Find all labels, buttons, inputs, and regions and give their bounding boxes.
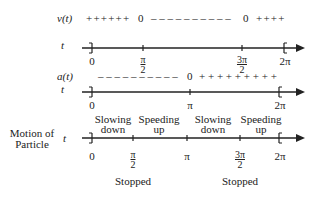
motion-axis-var: t: [63, 132, 66, 144]
velocity-axis-var: t: [61, 39, 64, 51]
motion-tick-pi-over-2: π2: [130, 148, 135, 169]
velocity-zero-2: 0: [243, 12, 250, 24]
acceleration-tick-pi: π: [187, 99, 193, 111]
velocity-positive-signs-2: ++++: [256, 12, 286, 24]
acceleration-axis: [82, 87, 305, 97]
motion-label: Motion of Particle: [4, 128, 60, 150]
stopped-label-1: Stopped: [115, 175, 151, 187]
velocity-axis: [82, 43, 305, 53]
acceleration-positive-signs: + + + + + + + + +: [199, 70, 277, 82]
motion-segment-slowing-2: Slowingdown: [195, 114, 232, 134]
motion-tick-pi: π: [184, 150, 190, 162]
stopped-label-2: Stopped: [222, 175, 258, 187]
acceleration-zero: 0: [187, 70, 194, 82]
acceleration-negative-signs: – – – – – – – – – –: [98, 70, 178, 82]
motion-tick-2pi: 2π: [274, 150, 285, 162]
motion-tick-0: 0: [89, 150, 95, 162]
velocity-label: v(t): [57, 12, 72, 24]
velocity-zero-1: 0: [138, 12, 145, 24]
motion-segment-slowing-1: Slowingdown: [95, 114, 132, 134]
acceleration-axis-var: t: [61, 83, 64, 95]
axes-graphics: [0, 0, 316, 198]
acceleration-label: a(t): [57, 70, 73, 82]
acceleration-tick-0: 0: [89, 99, 95, 111]
motion-segment-speeding-2: Speedingup: [241, 114, 282, 134]
motion-tick-3pi-over-2: 3π2: [235, 148, 245, 169]
acceleration-tick-2pi: 2π: [274, 99, 285, 111]
velocity-positive-signs-1: ++++++: [86, 12, 130, 24]
velocity-tick-2pi: 2π: [279, 55, 290, 67]
velocity-negative-signs: – – – – – – – – – –: [151, 12, 231, 24]
motion-segment-speeding-1: Speedingup: [139, 114, 180, 134]
velocity-tick-0: 0: [89, 55, 95, 67]
